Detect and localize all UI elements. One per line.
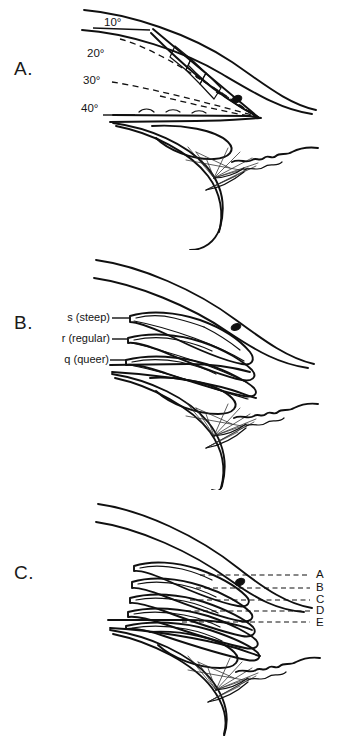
panel-a-drawing (0, 0, 337, 250)
panel-a: A. 10° 20° 30° 40° (0, 0, 337, 250)
lamella-label-r: r (regular) (40, 332, 110, 344)
figure-root: A. 10° 20° 30° 40° (0, 0, 337, 736)
angle-label-40: 40° (81, 102, 98, 114)
panel-letter-a: A. (14, 58, 33, 80)
panel-letter-c: C. (14, 562, 34, 584)
angle-label-30: 30° (83, 74, 100, 86)
panel-b: B. s (steep) r (regular) q (queer) (0, 250, 337, 490)
panel-letter-b: B. (14, 312, 33, 334)
level-label-d: D (316, 604, 324, 616)
lamella-label-q: q (queer) (49, 353, 109, 365)
level-label-b: B (316, 581, 324, 593)
angle-label-20: 20° (87, 47, 104, 59)
level-label-e: E (316, 616, 324, 628)
panel-c-drawing (0, 490, 337, 736)
panel-c: C. A B C D E (0, 490, 337, 736)
panel-b-drawing (0, 250, 337, 490)
angle-label-10: 10° (104, 16, 121, 28)
lamella-label-s: s (steep) (52, 311, 110, 323)
level-label-a: A (316, 568, 324, 580)
